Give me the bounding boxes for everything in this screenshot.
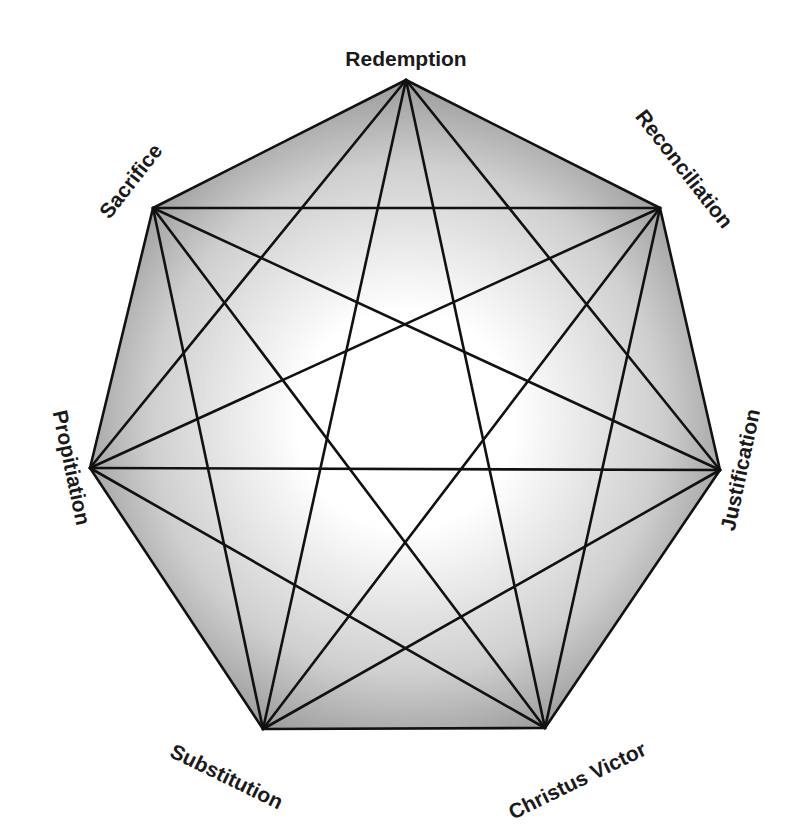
label-justification: Justification (716, 407, 764, 533)
heptagon-fill (90, 80, 720, 729)
label-christus-victor: Christus Victor (505, 737, 650, 823)
label-propitiation: Propitiation (49, 408, 96, 527)
label-redemption: Redemption (345, 47, 466, 70)
label-substitution: Substitution (167, 739, 287, 813)
edge-christus-victor-substitution (263, 728, 545, 729)
atonement-heptagram-diagram: RedemptionReconciliationJustificationChr… (0, 0, 806, 832)
